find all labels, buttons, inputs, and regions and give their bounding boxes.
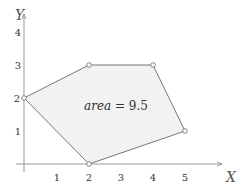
y-tick-4: 4 bbox=[15, 27, 21, 38]
area-value: = 9.5 bbox=[111, 99, 148, 113]
x-tick-2: 2 bbox=[86, 172, 92, 183]
x-axis-label: X bbox=[225, 169, 237, 185]
x-tick-1: 1 bbox=[54, 172, 60, 183]
x-tick-5: 5 bbox=[182, 172, 188, 183]
area-annotation: area = 9.5 bbox=[84, 99, 148, 113]
polygon-diagram: 1 2 3 4 5 1 2 3 4 X Y area = 9.5 bbox=[0, 0, 239, 188]
polygon-shape bbox=[24, 65, 185, 164]
y-tick-1: 1 bbox=[15, 126, 21, 137]
y-tick-3: 3 bbox=[15, 60, 21, 71]
y-tick-2: 2 bbox=[14, 93, 20, 104]
area-variable: area bbox=[84, 99, 111, 113]
x-tick-4: 4 bbox=[150, 172, 156, 183]
x-tick-3: 3 bbox=[118, 172, 124, 183]
